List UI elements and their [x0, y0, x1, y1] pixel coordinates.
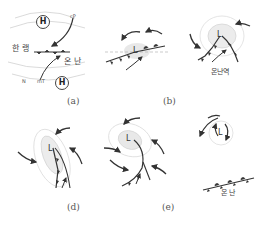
panel-d-graphics	[18, 124, 82, 191]
warm-sector-label: 온난역	[211, 66, 229, 76]
low-pressure-d: L	[48, 144, 52, 153]
cold-label: 한 랭	[12, 42, 29, 53]
cp-airmass-label: cP	[70, 13, 76, 19]
panel-c-graphics	[190, 16, 250, 62]
north-label: N	[22, 78, 26, 84]
high-pressure-south: H	[55, 76, 69, 90]
low-pressure-c: L	[217, 30, 221, 39]
panel-e-graphics	[104, 117, 166, 186]
cyclone-lifecycle-diagram: H H cP mT N 한 랭 온 난 (a) L (b) L 온난역 L (d…	[0, 0, 270, 225]
panel-f-graphics	[200, 115, 254, 192]
mt-airmass-label: mT	[37, 78, 45, 84]
high-pressure-north: H	[36, 15, 50, 29]
panel-b-graphics	[105, 30, 170, 70]
panel-label-d: (d)	[67, 202, 80, 212]
warm-label: 온 난	[64, 55, 81, 66]
low-pressure-f: L	[218, 128, 222, 137]
low-pressure-b: L	[133, 46, 137, 55]
low-pressure-e: L	[126, 134, 130, 143]
panel-label-b: (b)	[163, 96, 176, 106]
panel-label-e: (e)	[162, 202, 174, 212]
warm-front-label-f: 온 난	[221, 187, 235, 197]
panel-label-a: (a)	[67, 96, 79, 106]
